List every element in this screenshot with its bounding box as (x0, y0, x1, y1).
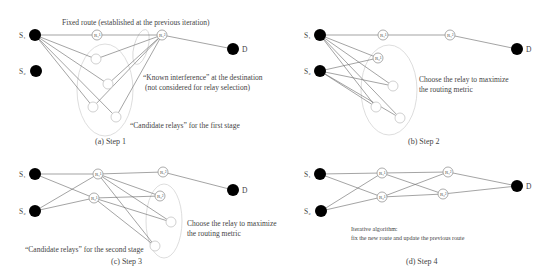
node-label-relay: R₁² (445, 170, 452, 175)
candidate-relay (111, 112, 121, 122)
node-label-relay: R₂² (440, 192, 447, 197)
source-node-s2 (315, 205, 327, 217)
caption-b: (b) Step 2 (408, 137, 440, 146)
node-label-relay: R₂¹ (379, 195, 386, 200)
destination-node (511, 43, 523, 55)
node-label-s1: S₁ (19, 170, 26, 179)
source-node-s2 (29, 205, 41, 217)
source-node-s1 (29, 29, 41, 41)
panel-d: S₁ S₂ D R₁¹ R₂¹ R₁² R₂² Iterative algori… (304, 167, 532, 266)
node-label-s2: S₂ (304, 67, 311, 76)
candidate-relays-annotation: “Candidate relays” for the second stage (25, 245, 144, 254)
panel-a: S₁ S₂ D R₁¹ R₁² Fixed route (established… (19, 18, 263, 146)
candidate-relay (150, 241, 160, 251)
known-interference-annotation: “Known interference” at the destination (143, 73, 263, 82)
destination-node (227, 184, 239, 196)
iterative-algorithm-annotation: Iterative algorithm: (351, 226, 398, 232)
candidate-relay (371, 102, 381, 112)
node-label-relay: R₁¹ (94, 33, 101, 38)
routing-metric-annotation: the routing metric (419, 85, 473, 94)
fixed-route-annotation: Fixed route (established at the previous… (62, 18, 210, 27)
node-label-relay: R₁² (160, 170, 167, 175)
node-label-d: D (242, 45, 248, 54)
node-label-relay: R₁¹ (380, 33, 387, 38)
node-label-s1: S₁ (19, 31, 26, 40)
relay-selection-diagram: S₁ S₂ D R₁¹ R₁² Fixed route (established… (0, 0, 558, 276)
candidate-relays-ellipse (361, 45, 417, 135)
panel-b: S₁ S₂ D R₁¹ R₁² R₂¹ Choose the relay to … (304, 29, 532, 146)
caption-d: (d) Step 4 (406, 257, 438, 266)
routing-metric-annotation: the routing metric (187, 229, 241, 238)
node-label-d: D (242, 186, 248, 195)
candidate-relay (91, 54, 101, 64)
candidate-relay (388, 81, 398, 91)
node-label-s1: S₁ (304, 31, 311, 40)
source-node-s1 (314, 168, 326, 180)
destination-node (227, 43, 239, 55)
source-node-s2 (314, 65, 326, 77)
node-label-s2: S₂ (19, 207, 26, 216)
node-label-s2: S₂ (304, 207, 311, 216)
node-label-s2: S₂ (19, 67, 26, 76)
candidate-relay (103, 79, 113, 89)
node-label-relay: R₂² (157, 194, 164, 199)
node-label-relay: R₂¹ (91, 196, 98, 201)
source-node-s1 (314, 29, 326, 41)
node-label-d: D (526, 182, 532, 191)
candidate-relay (166, 217, 176, 227)
node-label-relay: R₁¹ (95, 172, 102, 177)
node-label-relay: R₂¹ (375, 56, 382, 61)
caption-a: (a) Step 1 (95, 137, 126, 146)
candidate-relays-annotation: “Candidate relays” for the first stage (130, 121, 240, 130)
source-node-s2 (30, 65, 42, 77)
panel-c: S₁ S₂ D R₁¹ R₂¹ R₁² R₂² Choose the relay… (19, 167, 277, 266)
choose-relay-annotation: Choose the relay to maximize (187, 219, 277, 228)
caption-c: (c) Step 3 (111, 257, 142, 266)
candidate-relay (88, 102, 98, 112)
not-considered-annotation: (not considered for relay selection) (145, 83, 250, 92)
source-node-s1 (29, 168, 41, 180)
node-label-relay: R₁² (447, 33, 454, 38)
choose-relay-annotation: Choose the relay to maximize (419, 75, 509, 84)
candidate-relay (395, 113, 405, 123)
node-label-d: D (526, 45, 532, 54)
fix-route-annotation: fix the new route and update the previou… (351, 235, 465, 241)
destination-node (511, 180, 523, 192)
node-label-s1: S₁ (304, 170, 311, 179)
node-label-relay: R₁¹ (379, 171, 386, 176)
candidate-relays-ellipse (77, 44, 133, 136)
node-label-relay: R₁² (159, 33, 166, 38)
